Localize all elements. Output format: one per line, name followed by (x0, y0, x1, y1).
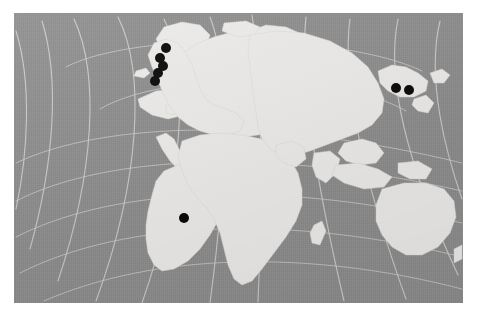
world-map-plate: Grey world map with near-white landmasse… (14, 13, 463, 303)
locality-point (150, 76, 160, 86)
figure-container: Grey world map with near-white landmasse… (0, 0, 477, 322)
locality-point (179, 213, 189, 223)
locality-point (161, 43, 171, 53)
land-new-zealand (454, 245, 462, 263)
land-iceland (134, 68, 150, 78)
land-indonesia (332, 163, 392, 189)
land-japan-islands (412, 95, 434, 113)
locality-point (391, 83, 401, 93)
land-madagascar (310, 221, 326, 245)
locality-point (404, 85, 414, 95)
land-southeast-asia-islands (338, 139, 384, 165)
land-new-guinea (398, 161, 432, 179)
land-kuril-arc (430, 69, 450, 83)
world-map-svg: Grey world map with near-white landmasse… (14, 13, 463, 303)
landmass-group (134, 21, 462, 285)
land-asia (248, 31, 384, 155)
